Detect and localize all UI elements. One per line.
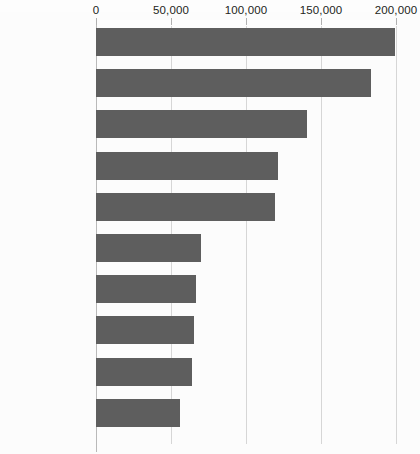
bar-row: Zaatari, Jordan [96, 26, 396, 67]
bar-row: Kakuma, Kenya [96, 67, 396, 108]
bar-row: Yida, South Sudan [96, 232, 396, 273]
bar-row: Mishamo, Tanzania [96, 356, 396, 397]
bar [96, 69, 371, 97]
axis-baseline-stub [96, 444, 97, 452]
chart-top-margin [0, 0, 420, 12]
bar [96, 152, 278, 180]
bar [96, 275, 196, 303]
bar [96, 110, 307, 138]
bar [96, 234, 201, 262]
gridline [396, 26, 397, 444]
x-axis-tick-label: 150,000 [300, 4, 342, 16]
bar-row: Dagahaley, Kenya [96, 150, 396, 191]
bar-row: Panian, Pakistan [96, 273, 396, 314]
x-axis-tick [96, 18, 97, 25]
x-axis-tick [321, 18, 322, 25]
bar-row: Katumba, Tanzania [96, 397, 396, 438]
bar [96, 399, 180, 427]
bar [96, 358, 192, 386]
bar-row: Pugnido, Ethiopia [96, 314, 396, 355]
x-axis-tick-label: 200,000 [375, 4, 417, 16]
x-axis-tick [171, 18, 172, 25]
x-axis-tick [246, 18, 247, 25]
bar-chart: 050,000100,000150,000200,000 Zaatari, Jo… [0, 0, 420, 454]
x-axis-tick-label: 100,000 [225, 4, 267, 16]
x-axis-tick-label: 0 [93, 4, 100, 16]
x-axis-tick [396, 18, 397, 25]
x-axis-tick-label: 50,000 [153, 4, 189, 16]
plot-area: Zaatari, JordanKakuma, KenyaHagadera, Ke… [96, 26, 396, 444]
bar [96, 28, 395, 56]
bar [96, 193, 275, 221]
bar-row: Hagadera, Kenya [96, 108, 396, 149]
bar-row: Ifo, Kenya [96, 191, 396, 232]
bar [96, 316, 194, 344]
